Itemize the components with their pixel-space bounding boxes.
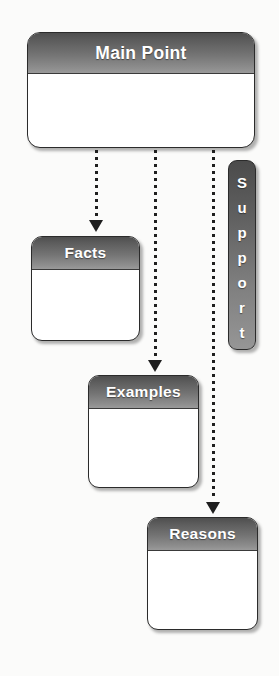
node-reasons-header: Reasons	[148, 518, 257, 551]
support-tab[interactable]: S u p p o r t	[228, 160, 256, 350]
arrowhead-facts	[89, 220, 103, 232]
support-letter-6: r	[239, 295, 245, 320]
node-reasons[interactable]: Reasons	[147, 517, 258, 630]
node-main-point[interactable]: Main Point	[27, 32, 255, 148]
support-letter-3: p	[237, 220, 246, 245]
node-examples[interactable]: Examples	[88, 375, 199, 488]
arrowhead-reasons	[206, 502, 220, 514]
connector-main-to-facts	[95, 150, 98, 218]
node-facts[interactable]: Facts	[31, 236, 140, 341]
arrowhead-examples	[148, 360, 162, 372]
support-letter-1: S	[237, 170, 247, 195]
support-letter-7: t	[240, 320, 245, 345]
node-main-point-header: Main Point	[28, 33, 254, 74]
node-facts-header: Facts	[32, 237, 139, 270]
diagram-canvas: Main Point S u p p o r t Facts Examples …	[0, 0, 279, 676]
support-letter-4: p	[237, 245, 246, 270]
support-letter-2: u	[237, 195, 246, 220]
node-examples-header: Examples	[89, 376, 198, 409]
connector-main-to-examples	[154, 150, 157, 358]
support-letter-5: o	[237, 270, 246, 295]
connector-main-to-reasons	[212, 150, 215, 500]
